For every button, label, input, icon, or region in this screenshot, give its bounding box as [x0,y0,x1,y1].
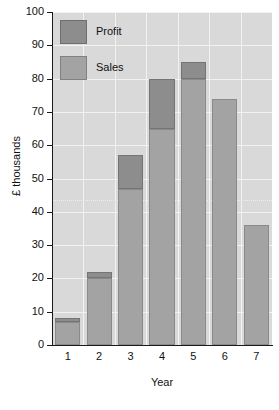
vertical-gridline [178,12,179,345]
legend-label-profit: Profit [96,25,122,37]
bar-column[interactable] [244,225,269,345]
y-tick-label: 100 [0,6,44,17]
bar-chart: Profit Sales Year £ thousands 0102030405… [0,0,279,410]
y-tick-mark [47,245,52,246]
bar-column[interactable] [181,62,206,345]
bar-column[interactable] [87,272,112,345]
y-tick-mark [47,278,52,279]
bar-segment-profit[interactable] [118,155,143,188]
bar-segment-sales[interactable] [244,225,269,345]
y-axis-line [52,12,53,346]
gridline [52,12,272,13]
y-tick-label: 40 [0,206,44,217]
y-tick-label: 10 [0,306,44,317]
y-tick-mark [47,112,52,113]
vertical-gridline [241,12,242,345]
bar-segment-profit[interactable] [87,272,112,279]
bar-segment-profit[interactable] [181,62,206,79]
legend-swatch-sales [60,56,87,80]
bar-segment-sales[interactable] [212,99,237,345]
bar-segment-sales[interactable] [87,278,112,345]
bar-segment-sales[interactable] [118,189,143,346]
bar-column[interactable] [118,155,143,345]
x-tick-label: 6 [209,350,240,362]
y-tick-mark [47,312,52,313]
y-tick-mark [47,12,52,13]
x-tick-label: 5 [178,350,209,362]
y-tick-label: 0 [0,339,44,350]
x-axis-title: Year [52,376,272,388]
y-tick-mark [47,79,52,80]
y-tick-mark [47,179,52,180]
bar-segment-sales[interactable] [181,79,206,345]
y-tick-label: 30 [0,239,44,250]
y-tick-mark [47,212,52,213]
gridline [52,45,272,46]
bar-column[interactable] [212,99,237,345]
bar-segment-profit[interactable] [149,79,174,129]
y-tick-mark [47,345,52,346]
bar-segment-sales[interactable] [149,129,174,345]
x-tick-label: 1 [52,350,83,362]
vertical-gridline [146,12,147,345]
legend-swatch-profit [60,20,87,44]
x-tick-label: 3 [115,350,146,362]
bar-column[interactable] [55,318,80,345]
vertical-gridline [209,12,210,345]
bar-segment-sales[interactable] [55,322,80,345]
x-axis-line [52,345,273,346]
x-tick-label: 2 [83,350,114,362]
y-tick-label: 80 [0,73,44,84]
x-tick-label: 7 [241,350,272,362]
y-tick-label: 70 [0,106,44,117]
x-tick-label: 4 [146,350,177,362]
y-tick-label: 90 [0,39,44,50]
bar-segment-profit[interactable] [55,318,80,321]
y-tick-mark [47,145,52,146]
legend-label-sales: Sales [96,61,124,73]
y-tick-label: 60 [0,139,44,150]
y-tick-mark [47,45,52,46]
y-tick-label: 50 [0,173,44,184]
y-tick-label: 20 [0,272,44,283]
bar-column[interactable] [149,79,174,345]
